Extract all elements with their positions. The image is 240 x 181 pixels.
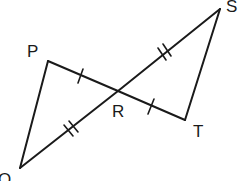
point-label-s: S [226,0,237,15]
point-label-q: Q [0,171,11,181]
segment-pq [20,61,48,168]
point-label-t: T [193,123,203,140]
geometry-diagram: P S R T Q [0,0,240,181]
segment-pr [48,61,118,91]
point-label-p: P [27,43,38,60]
diagram-svg [0,0,240,181]
segment-st [185,9,220,120]
segment-rs [118,9,220,91]
point-label-r: R [112,103,124,120]
segment-qr [20,91,118,168]
